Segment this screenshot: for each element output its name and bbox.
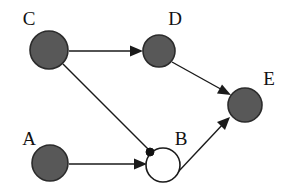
edge-d-to-e-arrowhead	[217, 85, 231, 96]
graph-diagram-canvas: C D E A B	[0, 0, 286, 188]
edge-d-to-e	[172, 62, 231, 95]
graph-svg: C D E A B	[0, 0, 286, 188]
edge-c-to-d-arrowhead	[130, 46, 143, 57]
node-d[interactable]	[143, 35, 175, 67]
node-layer	[30, 31, 262, 182]
label-layer: C D E A B	[22, 8, 275, 149]
node-b-join-dot	[146, 148, 154, 156]
edge-a-to-b-arrowhead	[134, 159, 147, 170]
node-e[interactable]	[228, 88, 262, 122]
node-label-a: A	[22, 128, 36, 149]
node-a[interactable]	[32, 145, 68, 181]
node-label-e: E	[263, 68, 275, 89]
node-label-c: C	[23, 8, 36, 29]
edge-d-to-e-line	[172, 62, 226, 92]
node-label-b: B	[175, 128, 188, 149]
edge-c-to-d	[69, 46, 143, 57]
node-label-d: D	[168, 8, 182, 29]
node-c[interactable]	[30, 31, 68, 69]
edge-c-to-b	[63, 64, 150, 151]
edge-a-to-b	[69, 159, 147, 170]
edge-c-to-b-line	[63, 64, 150, 151]
